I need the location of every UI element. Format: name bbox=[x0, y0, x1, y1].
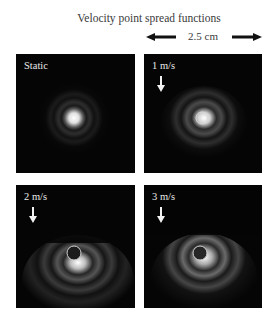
panel-label-1ms: 1 m/s bbox=[152, 60, 175, 71]
arrow-left-icon bbox=[146, 33, 176, 41]
velocity-arrow-down-icon bbox=[157, 76, 165, 92]
panel-label-3ms: 3 m/s bbox=[152, 191, 175, 202]
figure-title: Velocity point spread functions bbox=[0, 12, 278, 24]
panel-label-2ms: 2 m/s bbox=[24, 191, 47, 202]
psf-panel-1ms: 1 m/s bbox=[144, 54, 262, 173]
psf-panel-3ms: 3 m/s bbox=[144, 185, 262, 308]
scale-bar: 2.5 cm bbox=[146, 30, 262, 44]
psf-image-1ms bbox=[144, 54, 262, 173]
psf-image-2ms bbox=[16, 185, 135, 308]
velocity-arrow-down-icon bbox=[157, 207, 165, 223]
psf-image-static bbox=[16, 54, 135, 173]
psf-image-3ms bbox=[144, 185, 262, 308]
panel-label-static: Static bbox=[24, 60, 48, 71]
psf-panel-2ms: 2 m/s bbox=[16, 185, 135, 308]
velocity-arrow-down-icon bbox=[29, 207, 37, 223]
psf-panel-static: Static bbox=[16, 54, 135, 173]
scale-bar-label: 2.5 cm bbox=[188, 30, 218, 42]
arrow-right-icon bbox=[232, 33, 262, 41]
